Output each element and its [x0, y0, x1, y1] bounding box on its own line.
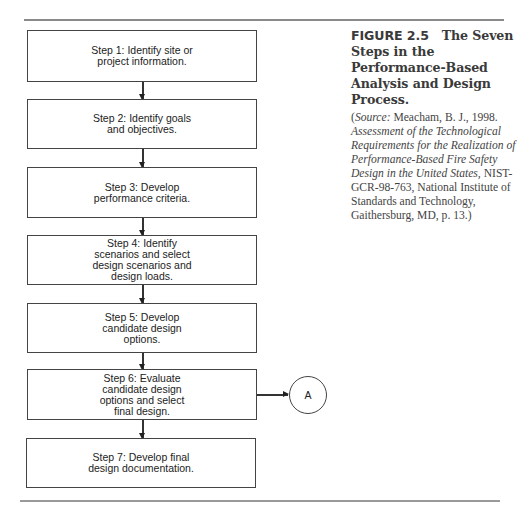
step-4-box: Step 4: Identify scenarios and select de…: [27, 235, 257, 285]
step-3-label: Step 3: Develop performance criteria.: [94, 182, 190, 204]
step-4-label: Step 4: Identify scenarios and select de…: [92, 238, 191, 282]
arrow-down-icon: [142, 285, 144, 303]
step-7-box: Step 7: Develop final design documentati…: [26, 438, 256, 488]
step-6-label: Step 6: Evaluate candidate design option…: [100, 373, 185, 417]
step-3-box: Step 3: Develop performance criteria.: [27, 167, 257, 218]
figure-page: Step 1: Identify site or project informa…: [0, 0, 524, 515]
connector-label: A: [304, 389, 311, 401]
figure-label: FIGURE 2.5: [351, 28, 429, 43]
source-author: Meacham, B. J., 1998.: [391, 111, 498, 124]
step-1-label: Step 1: Identify site or project informa…: [91, 45, 193, 67]
arrow-down-icon: [142, 420, 144, 438]
arrow-down-icon: [142, 218, 144, 235]
arrow-down-icon: [142, 149, 144, 167]
step-1-box: Step 1: Identify site or project informa…: [27, 30, 257, 82]
step-6-box: Step 6: Evaluate candidate design option…: [27, 369, 257, 420]
step-5-label: Step 5: Develop candidate design options…: [102, 312, 181, 345]
arrow-right-icon: [257, 394, 288, 396]
caption-title: FIGURE 2.5 The Seven Steps in the Perfor…: [351, 28, 523, 108]
source-label: Source:: [355, 111, 391, 124]
bottom-rule: [20, 500, 500, 502]
arrow-down-icon: [142, 353, 144, 369]
connector-a: A: [289, 376, 327, 414]
top-rule: [24, 19, 504, 21]
caption-source: (Source: Meacham, B. J., 1998. Assessmen…: [351, 111, 523, 223]
step-7-label: Step 7: Develop final design documentati…: [88, 452, 194, 474]
figure-caption: FIGURE 2.5 The Seven Steps in the Perfor…: [351, 28, 523, 223]
step-2-box: Step 2: Identify goals and objectives.: [27, 99, 257, 149]
step-2-label: Step 2: Identify goals and objectives.: [93, 113, 191, 135]
step-5-box: Step 5: Develop candidate design options…: [27, 303, 257, 353]
arrow-down-icon: [142, 82, 144, 99]
